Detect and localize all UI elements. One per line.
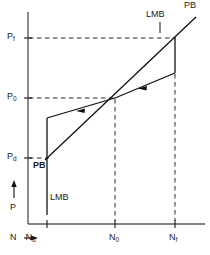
x-tick-label-nf-base: N: [169, 232, 176, 242]
x-tick-label-nd-sub: d: [32, 236, 36, 243]
x-tick-label-n0-base: N: [109, 232, 116, 242]
y-axis-title: P: [10, 203, 16, 212]
x-tick-label-nf-sub: f: [176, 236, 178, 243]
curve-label-pb-bottom: PB: [33, 161, 46, 170]
y-tick-label-pd-sub: d: [13, 155, 17, 162]
p-axis-arrow-group: [11, 180, 16, 198]
curve-label-lmb-top: LMB: [146, 10, 165, 19]
y-tick-label-pf-sub: f: [13, 35, 15, 42]
y-tick-label-p0: P0: [7, 92, 17, 101]
x-axis-title: N: [10, 232, 17, 242]
x-tick-label-n0: N0: [109, 233, 119, 242]
curve-label-pb-top: PB: [184, 1, 196, 10]
curve-label-lmb-bottom: LMB: [50, 193, 69, 202]
y-tick-label-pf: Pf: [7, 32, 15, 41]
pb-lower-segment: [47, 98, 115, 118]
lmb-curve: [45, 17, 196, 215]
x-tick-label-nf: Nf: [169, 233, 177, 242]
x-tick-label-nd: N→Nd: [10, 233, 36, 242]
y-tick-label-pd: Pd: [7, 152, 17, 161]
x-tick-label-n0-sub: 0: [116, 236, 120, 243]
p-axis-arrow-head: [11, 180, 16, 187]
figure-container: Pf P0 Pd P N→Nd N0 Nf LMB PB PB LMB: [0, 0, 210, 255]
y-tick-label-p0-sub: 0: [13, 95, 17, 102]
plot-canvas: [0, 0, 210, 255]
